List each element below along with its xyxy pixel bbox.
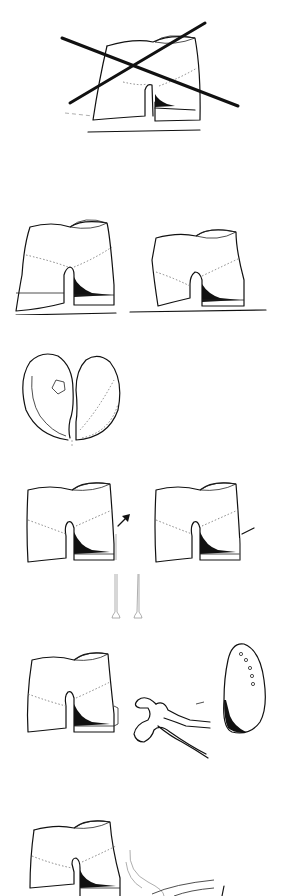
- figure-last-with-upper: [24, 808, 281, 896]
- cross-line-1: [62, 38, 238, 106]
- cross-line-2: [70, 23, 205, 103]
- header-text-fragment: [0, 0, 90, 4]
- figure-tacks: [108, 572, 148, 622]
- figure-pincers: [130, 690, 220, 760]
- tack-right: [134, 574, 142, 618]
- figure-insole-with-holes: [220, 640, 270, 740]
- figure-last-heel-tacked: [22, 648, 127, 738]
- figure-last-nail-inserted: [148, 478, 268, 568]
- figure-last-nail-arrow: [22, 478, 137, 568]
- figure-crossed-out-last: [55, 20, 245, 135]
- figure-pattern-pieces: [18, 350, 123, 450]
- figure-last-variant-a: [12, 215, 122, 315]
- figure-last-variant-b: [128, 220, 268, 315]
- tack-left: [112, 574, 120, 618]
